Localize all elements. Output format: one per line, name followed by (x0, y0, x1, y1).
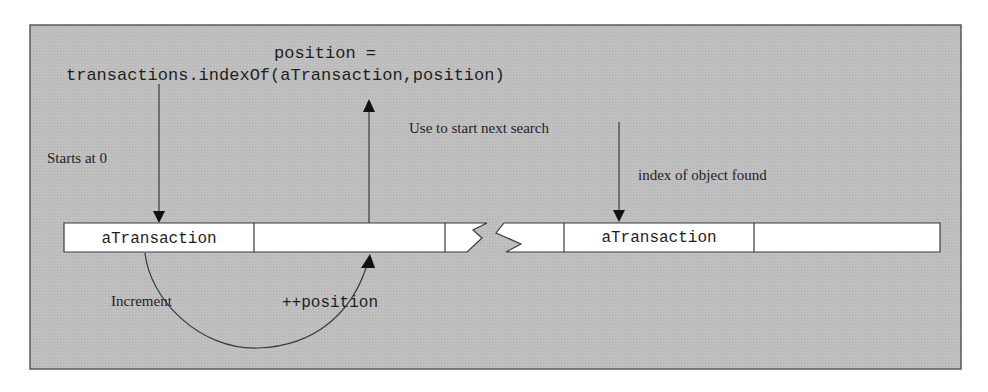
array-right-segment (496, 223, 940, 252)
increment-expr-label: ++position (282, 294, 378, 312)
code-label-line1: position = (274, 44, 376, 63)
index-found-label: index of object found (638, 167, 767, 183)
indexof-diagram: position = transactions.indexOf(aTransac… (0, 0, 988, 392)
array-cell-4-label: aTransaction (601, 229, 716, 247)
next-search-label: Use to start next search (409, 120, 549, 136)
array-cell-0-label: aTransaction (101, 230, 216, 248)
diagram-canvas: position = transactions.indexOf(aTransac… (0, 0, 988, 392)
code-label-line2: transactions.indexOf(aTransaction,positi… (66, 66, 505, 85)
increment-label: Increment (111, 293, 173, 309)
starts-at-zero-label: Starts at 0 (47, 150, 107, 166)
